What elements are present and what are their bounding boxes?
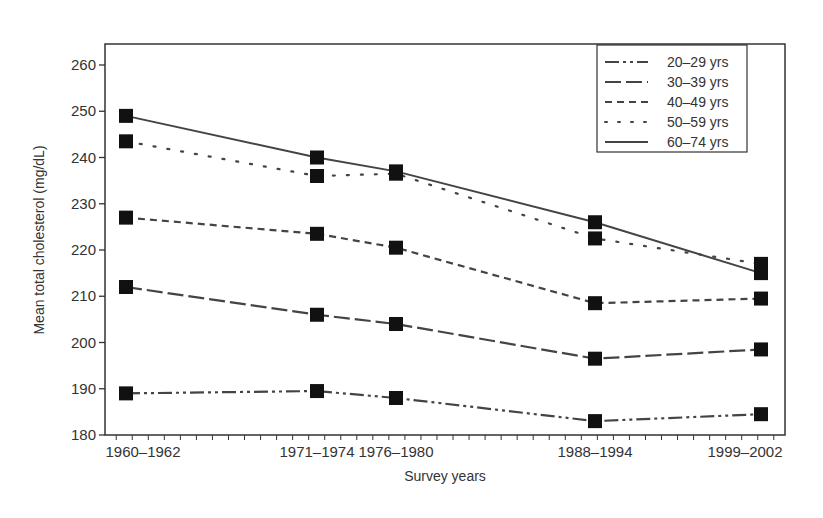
data-point-marker <box>119 280 133 294</box>
data-point-marker <box>389 317 403 331</box>
legend-label: 50–59 yrs <box>667 114 728 130</box>
data-point-marker <box>310 227 324 241</box>
series-line-20-29 <box>126 391 761 421</box>
x-tick-label: 1988–1994 <box>557 443 632 460</box>
legend-label: 30–39 yrs <box>667 74 728 90</box>
data-point-marker <box>310 384 324 398</box>
data-point-marker <box>310 169 324 183</box>
x-axis: 1960–19621971–19741976–19801988–19941999… <box>105 435 782 460</box>
data-point-marker <box>754 342 768 356</box>
data-point-marker <box>119 211 133 225</box>
y-axis: 180190200210220230240250260 <box>71 56 105 443</box>
data-point-marker <box>119 109 133 123</box>
x-tick-label: 1960–1962 <box>105 443 180 460</box>
x-tick-label: 1971–1974 <box>279 443 354 460</box>
data-point-marker <box>389 164 403 178</box>
x-axis-title: Survey years <box>404 468 486 484</box>
data-point-marker <box>754 407 768 421</box>
data-point-marker <box>588 414 602 428</box>
data-point-marker <box>389 241 403 255</box>
y-tick-label: 190 <box>71 380 96 397</box>
line-chart: 180190200210220230240250260 1960–1962197… <box>0 0 823 518</box>
series-line-50-59 <box>126 141 761 264</box>
legend-label: 60–74 yrs <box>667 134 728 150</box>
y-tick-label: 250 <box>71 102 96 119</box>
data-point-marker <box>119 134 133 148</box>
data-point-marker <box>754 292 768 306</box>
y-tick-label: 220 <box>71 241 96 258</box>
x-tick-label: 1999–2002 <box>707 443 782 460</box>
y-tick-label: 230 <box>71 195 96 212</box>
series-markers <box>119 109 768 428</box>
y-tick-label: 210 <box>71 287 96 304</box>
y-tick-label: 260 <box>71 56 96 73</box>
x-tick-label: 1976–1980 <box>358 443 433 460</box>
legend-label: 40–49 yrs <box>667 94 728 110</box>
data-point-marker <box>588 352 602 366</box>
series-line-40-49 <box>126 218 761 304</box>
y-tick-label: 180 <box>71 426 96 443</box>
data-point-marker <box>754 266 768 280</box>
data-point-marker <box>310 308 324 322</box>
series-lines <box>126 116 761 421</box>
data-point-marker <box>310 151 324 165</box>
legend-label: 20–29 yrs <box>667 54 728 70</box>
data-point-marker <box>389 391 403 405</box>
series-line-30-39 <box>126 287 761 359</box>
y-tick-label: 240 <box>71 149 96 166</box>
data-point-marker <box>119 386 133 400</box>
y-axis-title: Mean total cholesterol (mg/dL) <box>31 145 47 334</box>
data-point-marker <box>588 231 602 245</box>
legend: 20–29 yrs30–39 yrs40–49 yrs50–59 yrs60–7… <box>597 45 747 152</box>
y-tick-label: 200 <box>71 334 96 351</box>
data-point-marker <box>588 215 602 229</box>
data-point-marker <box>588 296 602 310</box>
